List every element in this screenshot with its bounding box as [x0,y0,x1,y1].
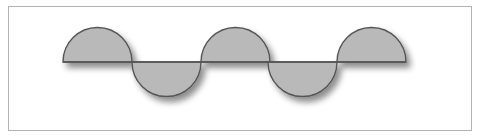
semicircle-up [337,28,406,63]
wave-shapes [63,28,406,97]
semicircle-up [63,28,132,63]
semicircle-up [201,28,270,63]
semicircle-down [268,62,337,97]
diagram-canvas [0,0,482,138]
semicircle-down [132,62,201,97]
alternating-semicircle-wave [0,0,482,138]
